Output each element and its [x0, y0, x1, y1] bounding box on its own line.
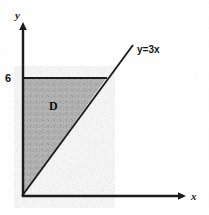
figure-canvas: y x 6 D y=3x — [0, 0, 209, 215]
x-axis-label: x — [190, 190, 197, 202]
math-figure: y x 6 D y=3x — [0, 0, 209, 215]
y-tick-label-6: 6 — [5, 72, 11, 84]
line-equation-label: y=3x — [137, 44, 160, 55]
y-axis-label: y — [13, 9, 20, 21]
region-d-label: D — [49, 99, 58, 113]
